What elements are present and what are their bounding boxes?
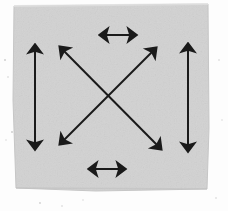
- figure-canvas: [0, 0, 228, 211]
- arrow-diagram-svg: [0, 0, 228, 211]
